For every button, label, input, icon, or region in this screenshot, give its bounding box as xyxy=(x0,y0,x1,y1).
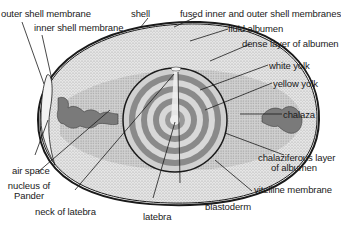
label-neck-of-latebra: neck of latebra xyxy=(35,207,96,217)
label-chalaziferous-line2: of albumen xyxy=(258,163,330,173)
label-vitelline-membrane: vitelline membrane xyxy=(254,185,332,195)
label-chalaziferous-layer: chalaziferous layer of albumen xyxy=(258,153,330,173)
label-nucleus-of-pander: nucleus of Pander xyxy=(4,181,54,201)
label-fused-membranes: fused inner and outer shell membranes xyxy=(180,9,341,19)
label-dense-albumen: dense layer of albumen xyxy=(242,39,339,49)
blastoderm xyxy=(171,67,181,71)
label-yellow-yolk: yellow yolk xyxy=(273,79,318,89)
label-chalaza: chalaza xyxy=(283,110,315,120)
label-air-space: air space xyxy=(12,166,50,176)
label-blastoderm: blastoderm xyxy=(205,202,251,212)
label-inner-shell-membrane: inner shell membrane xyxy=(34,23,123,33)
label-white-yolk: white yolk xyxy=(269,61,310,71)
label-fluid-albumen: fluid albumen xyxy=(228,24,283,34)
label-nucleus-line2: Pander xyxy=(4,191,54,201)
label-outer-shell-membrane: outer shell membrane xyxy=(1,9,91,19)
label-shell: shell xyxy=(131,9,150,19)
label-latebra: latebra xyxy=(143,212,171,222)
